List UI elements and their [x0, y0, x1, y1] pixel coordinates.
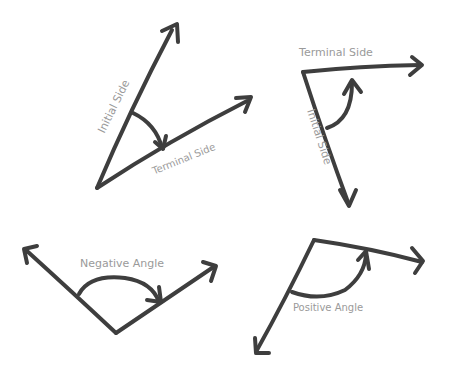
- angle-diagram-2: Terminal Side Initial Side: [298, 46, 422, 206]
- right-ray: [116, 266, 215, 333]
- terminal-side-label: Terminal Side: [298, 46, 373, 59]
- initial-side-label: Initial Side: [304, 107, 334, 166]
- positive-angle-label: Positive Angle: [293, 302, 363, 313]
- terminal-side-ray: [97, 101, 247, 188]
- negative-angle-diagram: Negative Angle: [24, 246, 216, 333]
- angle-diagram-1: Initial Side Terminal Side: [95, 24, 251, 188]
- positive-angle-diagram: Positive Angle: [255, 240, 423, 353]
- angle-diagrams: Initial Side Terminal Side Terminal Side…: [0, 0, 449, 384]
- negative-angle-label: Negative Angle: [80, 257, 164, 270]
- initial-side-label: Initial Side: [95, 77, 132, 135]
- terminal-side-ray: [303, 65, 420, 72]
